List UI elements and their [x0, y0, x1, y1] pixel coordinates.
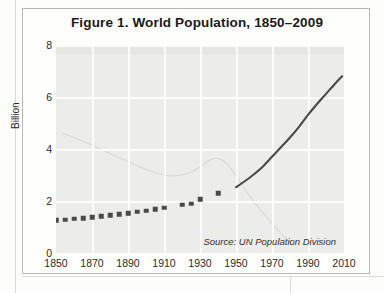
source-annotation: Source: UN Population Division: [203, 236, 336, 247]
y-axis-tick-label: 2: [46, 195, 52, 207]
x-axis-tick-label: 1970: [260, 257, 283, 269]
y-axis-tick-label: 6: [46, 91, 52, 103]
x-axis-tick-label: 1950: [224, 257, 247, 269]
x-axis-tick-label: 2010: [332, 257, 355, 269]
figure-frame: Figure 1. World Population, 1850–2009 Bi…: [22, 8, 370, 274]
x-axis-tick-label: 1930: [188, 257, 211, 269]
page-edge-rule-left: [15, 0, 16, 293]
x-axis-tick-label: 1870: [80, 257, 103, 269]
x-axis-tick-label: 1850: [44, 257, 67, 269]
y-axis-tick-label: 8: [46, 39, 52, 51]
plot-inner: [56, 45, 344, 253]
x-axis-ticks: 185018701890191019301950197019902010: [56, 257, 344, 273]
y-axis-title: Billion: [10, 102, 21, 129]
line-path: [236, 76, 342, 187]
x-axis-tick-label: 1890: [116, 257, 139, 269]
page-edge-rule-bottom: [22, 276, 384, 277]
plot-area: Source: UN Population Division: [56, 45, 344, 253]
page-edge-rule-bottom-vertical: [290, 276, 291, 293]
y-axis-ticks: 02468: [31, 45, 52, 253]
x-axis-tick-label: 1910: [152, 257, 175, 269]
y-axis-tick-label: 4: [46, 143, 52, 155]
page-title: Figure 1. World Population, 1850–2009: [23, 15, 371, 30]
x-axis-tick-label: 1990: [296, 257, 319, 269]
data-line-series: [56, 45, 344, 253]
